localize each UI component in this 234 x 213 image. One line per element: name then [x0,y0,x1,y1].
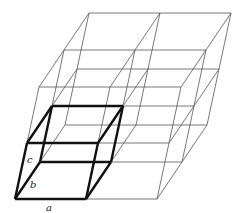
label-c: c [27,154,33,165]
lattice-diagram: a b c [0,0,234,213]
label-b: b [30,179,36,190]
label-a: a [46,202,52,213]
